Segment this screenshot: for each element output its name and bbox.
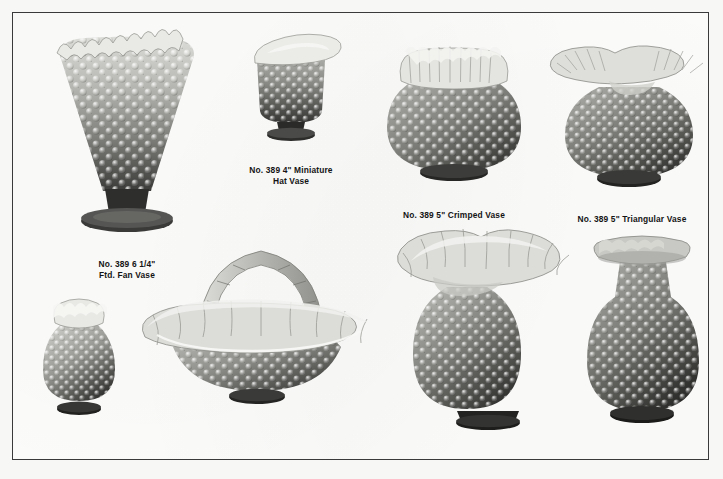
catalog-item-crimped-vase-5half[interactable]: No 389 5 1/2" Crimped Vase xyxy=(565,231,709,435)
page-frame: No. 389 6 1/4" Ftd. Fan Vase xyxy=(12,12,709,460)
catalog-item-vase-6in[interactable]: No. 389 6" Vase xyxy=(389,209,585,435)
item-caption-triangular-vase-5in: No. 389 5" Triangular Vase xyxy=(578,214,687,225)
item-caption-miniature-hat-vase: No. 389 4" Miniature Hat Vase xyxy=(249,165,332,188)
caption-line-1: No. 389 5" Triangular Vase xyxy=(578,214,687,224)
crimped-round-vase-image xyxy=(365,29,543,191)
catalog-item-triangular-vase-5in[interactable]: No. 389 5" Triangular Vase xyxy=(541,33,709,191)
amphora-vase-image xyxy=(565,231,709,435)
catalog-item-miniature-hat-vase[interactable]: No. 389 4" Miniature Hat Vase xyxy=(225,27,357,147)
triangular-vase-image xyxy=(541,33,709,191)
caption-line-2: Hat Vase xyxy=(249,176,332,187)
catalog-item-basket-7in[interactable]: No. 389 7" Basket xyxy=(137,195,387,435)
handled-basket-image xyxy=(137,195,387,435)
small-ovoid-vase-image xyxy=(19,285,139,427)
caption-line-1: No. 389 4" Miniature xyxy=(249,165,332,175)
tall-ruffled-vase-image xyxy=(389,209,585,435)
hat-vase-image xyxy=(225,27,357,147)
catalog-item-crimped-vase-5in[interactable]: No. 389 5" Crimped Vase xyxy=(365,29,543,191)
catalog-page: No. 389 6 1/4" Ftd. Fan Vase xyxy=(0,0,723,479)
catalog-item-miniature-cupped-crimped-vase[interactable]: No. 389 4" Miniature Cupped Crimped Vase xyxy=(19,285,139,427)
